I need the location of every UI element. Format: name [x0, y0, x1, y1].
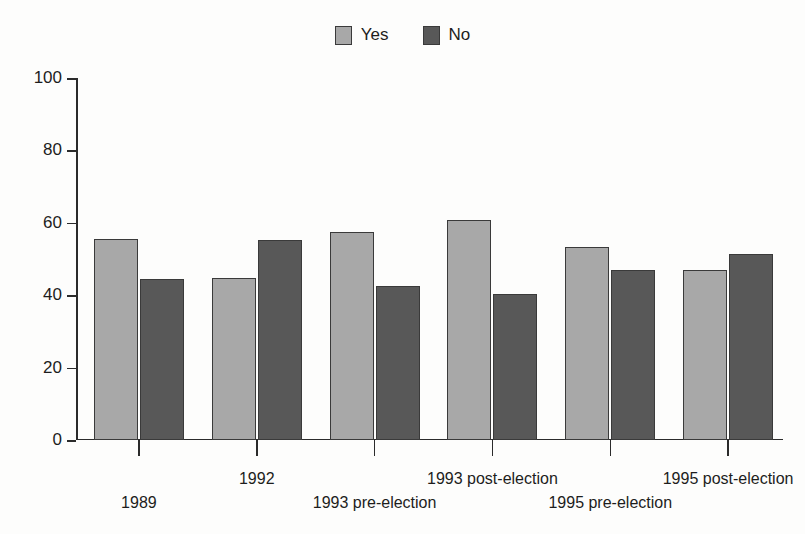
legend-swatch-yes-icon	[335, 26, 352, 45]
x-axis-tick	[256, 440, 258, 456]
y-axis-tick	[67, 440, 76, 442]
y-axis-tick-label: 20	[8, 358, 62, 378]
bar-no-4	[493, 294, 537, 440]
y-axis-tick-label: 60	[8, 213, 62, 233]
x-axis-tick	[727, 440, 729, 456]
x-axis-tick	[138, 440, 140, 456]
bar-no-1	[140, 279, 184, 440]
x-axis-label-1: 1989	[121, 494, 157, 512]
x-axis-label-3: 1993 pre-election	[313, 494, 437, 512]
y-axis-tick-label: 40	[8, 285, 62, 305]
y-axis-tick	[67, 78, 76, 80]
bar-yes-4	[447, 220, 491, 440]
x-axis-label-2: 1992	[239, 470, 275, 488]
y-axis-tick	[67, 368, 76, 370]
x-axis-label-6: 1995 post-election	[663, 470, 794, 488]
x-axis-label-4: 1993 post-election	[427, 470, 558, 488]
bar-yes-3	[330, 232, 374, 440]
x-axis-tick	[492, 440, 494, 456]
bar-yes-6	[683, 270, 727, 440]
plot-area: 020406080100	[76, 78, 783, 440]
y-axis-tick	[67, 223, 76, 225]
bar-no-5	[611, 270, 655, 440]
legend-item-yes: Yes	[335, 25, 389, 45]
bar-no-3	[376, 286, 420, 440]
y-axis-tick-label: 80	[8, 140, 62, 160]
bar-yes-1	[94, 239, 138, 440]
bar-chart: Yes No 020406080100 198919921993 pre-ele…	[0, 0, 805, 534]
bar-yes-2	[212, 278, 256, 440]
x-axis-tick	[374, 440, 376, 456]
legend-item-no: No	[423, 25, 471, 45]
chart-title	[0, 0, 805, 3]
y-axis-tick	[67, 150, 76, 152]
x-axis-label-5: 1995 pre-election	[548, 494, 672, 512]
chart-legend: Yes No	[0, 25, 805, 45]
legend-label-no: No	[449, 25, 471, 45]
x-axis-tick	[610, 440, 612, 456]
y-axis-tick-label: 0	[8, 430, 62, 450]
legend-label-yes: Yes	[361, 25, 389, 45]
y-axis-tick-label: 100	[8, 68, 62, 88]
bar-no-2	[258, 240, 302, 440]
bar-no-6	[729, 254, 773, 440]
legend-swatch-no-icon	[423, 26, 440, 45]
y-axis-line	[76, 78, 78, 440]
bar-yes-5	[565, 247, 609, 440]
y-axis-tick	[67, 295, 76, 297]
